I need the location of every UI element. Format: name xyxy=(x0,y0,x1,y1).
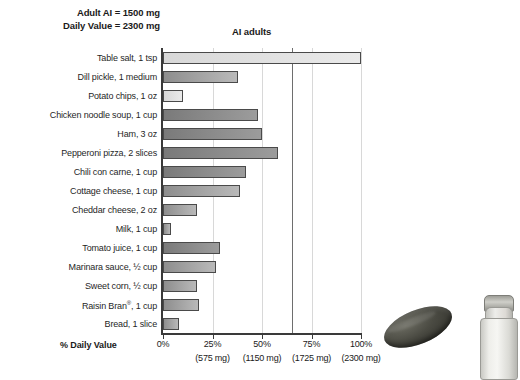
x-tick-mg-label: (2300 mg) xyxy=(336,353,386,363)
category-label: Potato chips, 1 oz xyxy=(0,91,157,101)
bar xyxy=(163,71,238,83)
category-label: Sweet corn, ½ cup xyxy=(0,281,157,291)
category-label: Pepperoni pizza, 2 slices xyxy=(0,148,157,158)
x-tick-mg-label: (575 mg) xyxy=(188,353,238,363)
ai-adults-label: AI adults xyxy=(232,26,271,37)
dill-pickle-photo xyxy=(378,298,457,356)
category-label: Tomato juice, 1 cup xyxy=(0,243,157,253)
category-label: Table salt, 1 tsp xyxy=(0,53,157,63)
bar-row xyxy=(163,71,361,83)
bar-row xyxy=(163,90,361,102)
bar-row xyxy=(163,242,361,254)
bar-row xyxy=(163,166,361,178)
bar xyxy=(163,242,220,254)
bar-row xyxy=(163,223,361,235)
bar xyxy=(163,299,199,311)
bar xyxy=(163,166,246,178)
bar xyxy=(163,109,258,121)
bar-row xyxy=(163,128,361,140)
daily-value-note: Daily Value = 2300 mg xyxy=(0,19,160,32)
adult-ai-note: Adult AI = 1500 mg xyxy=(0,6,160,19)
plot-area xyxy=(163,48,361,333)
intake-notes: Adult AI = 1500 mg Daily Value = 2300 mg xyxy=(0,6,160,32)
category-label: Dill pickle, 1 medium xyxy=(0,72,157,82)
bar-row xyxy=(163,52,361,64)
x-tick-mg-label: (1725 mg) xyxy=(287,353,337,363)
gridline-100 xyxy=(361,48,362,333)
salt-shaker-photo xyxy=(476,293,520,378)
bar xyxy=(163,52,361,64)
x-axis-title: % Daily Value xyxy=(60,340,117,350)
x-tick-percent-label: 75% xyxy=(287,339,337,349)
category-label: Chicken noodle soup, 1 cup xyxy=(0,110,157,120)
bar-row xyxy=(163,204,361,216)
bar xyxy=(163,128,262,140)
bar-row xyxy=(163,299,361,311)
x-tick-percent-label: 100% xyxy=(336,339,386,349)
bar xyxy=(163,318,179,330)
category-label: Raisin Bran®, 1 cup xyxy=(0,300,157,311)
bar xyxy=(163,147,278,159)
category-label: Bread, 1 slice xyxy=(0,319,157,329)
category-label: Marinara sauce, ½ cup xyxy=(0,262,157,272)
category-label: Chili con carne, 1 cup xyxy=(0,167,157,177)
bar xyxy=(163,261,216,273)
x-axis-line xyxy=(161,333,361,335)
bar xyxy=(163,90,183,102)
x-tick-mg-label: (1150 mg) xyxy=(237,353,287,363)
x-tick-percent-label: 0% xyxy=(138,339,188,349)
bar-row xyxy=(163,318,361,330)
salt-shaker-body xyxy=(480,318,518,380)
bar-row xyxy=(163,261,361,273)
x-tick-percent-label: 50% xyxy=(237,339,287,349)
category-label: Ham, 3 oz xyxy=(0,129,157,139)
category-label: Cheddar cheese, 2 oz xyxy=(0,205,157,215)
category-label: Cottage cheese, 1 cup xyxy=(0,186,157,196)
x-tick-percent-label: 25% xyxy=(188,339,238,349)
bar xyxy=(163,223,171,235)
bar-row xyxy=(163,147,361,159)
bar xyxy=(163,204,197,216)
bar-row xyxy=(163,280,361,292)
bar xyxy=(163,280,197,292)
bar-row xyxy=(163,109,361,121)
category-label: Milk, 1 cup xyxy=(0,224,157,234)
bar xyxy=(163,185,240,197)
bar-row xyxy=(163,185,361,197)
